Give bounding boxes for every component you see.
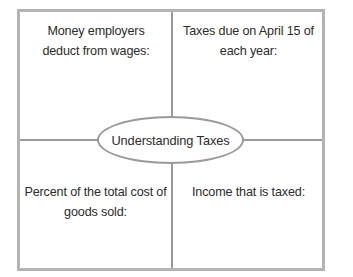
quadrant-bottom-right-label: Income that is taxed: (174, 183, 323, 203)
graphic-organizer-worksheet: Money employers deduct from wages: Taxes… (0, 0, 353, 277)
quadrant-bottom-left-label: Percent of the total cost of goods sold: (20, 183, 171, 222)
quadrant-top-left-label: Money employers deduct from wages: (22, 22, 170, 61)
center-concept-label: Understanding Taxes (111, 133, 229, 148)
center-concept-ellipse: Understanding Taxes (97, 116, 244, 164)
quadrant-top-right-label: Taxes due on April 15 of each year: (174, 22, 323, 61)
